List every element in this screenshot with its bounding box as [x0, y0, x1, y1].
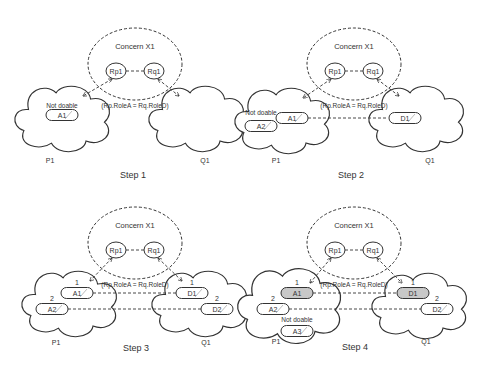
step-panel-1: Concern X1Rp1Rq1(Rp.RoleA = Rq.RoleD)A1N… [15, 28, 244, 180]
activity-d2-label: D2 [433, 306, 442, 313]
not-doable-label: Not doable [46, 102, 78, 109]
actor-q1-label: Q1 [421, 338, 430, 346]
activity-a2-rank: 2 [50, 295, 54, 302]
concern-label: Concern X1 [115, 221, 155, 230]
collaboration-diagram: Concern X1Rp1Rq1(Rp.RoleA = Rq.RoleD)A1N… [0, 0, 481, 371]
concern-label: Concern X1 [115, 42, 155, 51]
actor-p1-label: P1 [46, 157, 55, 164]
rp-actor-arrow [90, 258, 112, 281]
constraint-label: (Rp.RoleA = Rq.RoleD) [101, 281, 168, 289]
actor-q1-label: Q1 [201, 339, 210, 347]
actor-p1-label: P1 [52, 339, 61, 346]
activity-d1-label: D1 [409, 290, 418, 297]
activity-d2-rank: 2 [435, 295, 439, 302]
actor-p1-label: P1 [272, 157, 281, 164]
concern-ellipse [88, 207, 182, 279]
activity-d1-label: D1 [188, 290, 197, 297]
actor-q1-label: Q1 [425, 157, 434, 165]
activity-d1-rank: 1 [190, 279, 194, 286]
activity-d1-label: D1 [401, 115, 410, 122]
rp-actor-arrow [310, 258, 331, 283]
constraint-label: (Rp.RoleA = Rq.RoleD) [320, 102, 387, 110]
activity-a2-label: A2 [269, 306, 278, 313]
role-rp1-label: Rp1 [110, 68, 123, 76]
step-caption: Step 4 [342, 342, 368, 352]
concern-ellipse [307, 207, 401, 279]
activity-a1-label: A1 [288, 115, 297, 122]
activity-a1-label: A1 [293, 290, 302, 297]
role-rp1-label: Rp1 [110, 247, 123, 255]
cloud-right-actor [149, 86, 244, 151]
activity-a2-label: A2 [257, 123, 266, 130]
activity-a1-label: A1 [58, 112, 67, 119]
step-panel-2: Concern X1Rp1Rq1(Rp.RoleA = Rq.RoleD)A1A… [235, 28, 464, 180]
activity-d1-rank: 1 [411, 279, 415, 286]
concern-ellipse [307, 28, 401, 100]
step-caption: Step 2 [338, 170, 364, 180]
role-rq1-label: Rq1 [148, 247, 161, 255]
step-caption: Step 1 [120, 170, 146, 180]
step-panel-4: Concern X1Rp1Rq1(Rp.RoleA = Rq.RoleD)A11… [238, 207, 467, 352]
not-doable-label: Not doable [245, 109, 277, 116]
concern-ellipse [88, 28, 182, 100]
role-rq1-label: Rq1 [148, 68, 161, 76]
activity-a1-rank: 1 [295, 279, 299, 286]
step-caption: Step 3 [123, 343, 149, 353]
constraint-label: (Rp.RoleA = Rq.RoleD) [101, 102, 168, 110]
activity-a1-rank: 1 [75, 279, 79, 286]
activity-a3-label: A3 [293, 328, 302, 335]
activity-d2-label: D2 [213, 306, 222, 313]
concern-label: Concern X1 [334, 42, 374, 51]
role-rp1-label: Rp1 [329, 247, 342, 255]
role-rp1-label: Rp1 [329, 68, 342, 76]
step-panel-3: Concern X1Rp1Rq1(Rp.RoleA = Rq.RoleD)A11… [22, 207, 247, 353]
not-doable-label: Not doable [281, 316, 313, 323]
constraint-label: (Rp.RoleA = Rq.RoleD) [320, 281, 387, 289]
activity-a1-label: A1 [73, 290, 82, 297]
actor-p1-label: P1 [272, 338, 281, 345]
concern-label: Concern X1 [334, 221, 374, 230]
actor-q1-label: Q1 [200, 157, 209, 165]
role-rq1-label: Rq1 [367, 68, 380, 76]
activity-a2-label: A2 [48, 306, 57, 313]
activity-a2-rank: 2 [271, 295, 275, 302]
activity-d2-rank: 2 [215, 295, 219, 302]
role-rq1-label: Rq1 [367, 247, 380, 255]
